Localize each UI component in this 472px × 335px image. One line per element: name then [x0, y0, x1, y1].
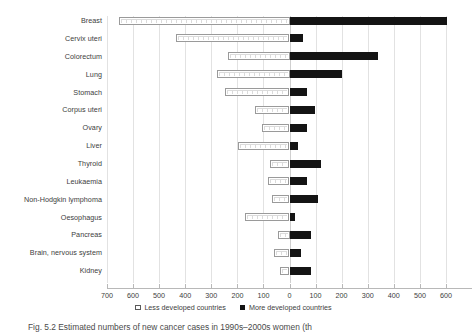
x-axis-line — [107, 288, 472, 289]
category-label-oesophagus: Oesophagus — [2, 213, 102, 222]
open-square-swatch-icon — [135, 305, 141, 311]
bar-pattern — [178, 36, 287, 40]
bar-less-developed-oesophagus — [245, 213, 289, 221]
category-label-kidney: Kidney — [2, 266, 102, 275]
gridline — [446, 16, 447, 283]
bar-more-developed-oesophagus — [290, 213, 296, 221]
tick-mark — [394, 284, 395, 288]
chart-plot-area: BreastCervix uteriColorectumLungStomachC… — [0, 0, 467, 300]
tick-mark — [107, 284, 108, 288]
bar-pattern — [282, 269, 287, 273]
bar-pattern — [280, 233, 288, 237]
bar-more-developed-kidney — [290, 267, 311, 275]
filled-square-swatch-icon — [240, 305, 246, 311]
tick-mark — [446, 284, 447, 288]
category-label-non-hodgkin-lymphoma: Non-Hodgkin lymphoma — [2, 195, 102, 204]
bar-pattern — [274, 197, 287, 201]
bar-less-developed-kidney — [280, 267, 289, 275]
bar-more-developed-leukaemia — [290, 177, 308, 185]
bar-more-developed-ovary — [290, 124, 308, 132]
tick-mark — [133, 284, 134, 288]
bar-less-developed-non-hodgkin-lymphoma — [272, 195, 289, 203]
bar-more-developed-liver — [290, 142, 298, 150]
bar-less-developed-ovary — [262, 124, 290, 132]
legend-label-less-developed: Less developed countries — [144, 303, 226, 312]
bar-more-developed-lung — [290, 70, 343, 78]
x-tick-label: 600 — [431, 291, 461, 300]
gridline — [420, 16, 421, 283]
bar-more-developed-colorectum — [290, 52, 378, 60]
bar-less-developed-liver — [238, 142, 290, 150]
bar-more-developed-non-hodgkin-lymphoma — [290, 195, 319, 203]
category-label-ovary: Ovary — [2, 123, 102, 132]
bar-more-developed-thyroid — [290, 160, 322, 168]
bar-pattern — [247, 215, 287, 219]
category-label-thyroid: Thyroid — [2, 159, 102, 168]
bar-more-developed-corpus-uteri — [290, 106, 316, 114]
bar-pattern — [219, 72, 288, 76]
figure-caption: Fig. 5.2 Estimated numbers of new cancer… — [28, 322, 458, 334]
bar-more-developed-breast — [290, 17, 448, 25]
tick-mark — [420, 284, 421, 288]
category-label-corpus-uteri: Corpus uteri — [2, 105, 102, 114]
bar-less-developed-stomach — [225, 88, 289, 96]
gridline — [211, 16, 212, 283]
tick-mark — [237, 284, 238, 288]
gridline — [107, 16, 108, 283]
category-label-leukaemia: Leukaemia — [2, 177, 102, 186]
gridline — [185, 16, 186, 283]
tick-mark — [368, 284, 369, 288]
bar-less-developed-cervix-uteri — [176, 34, 289, 42]
bar-pattern — [230, 54, 288, 58]
bar-pattern — [264, 126, 288, 130]
bar-less-developed-thyroid — [270, 160, 290, 168]
category-label-cervix-uteri: Cervix uteri — [2, 34, 102, 43]
bar-pattern — [276, 251, 287, 255]
gridline — [394, 16, 395, 283]
category-label-liver: Liver — [2, 141, 102, 150]
category-label-colorectum: Colorectum — [2, 52, 102, 61]
legend-item-less-developed: Less developed countries — [135, 303, 226, 312]
bar-less-developed-leukaemia — [268, 177, 290, 185]
bar-less-developed-brain-nervous-system — [274, 249, 289, 257]
bar-more-developed-stomach — [290, 88, 308, 96]
tick-mark — [290, 284, 291, 288]
bar-pattern — [240, 144, 288, 148]
bar-pattern — [270, 179, 288, 183]
tick-mark — [159, 284, 160, 288]
tick-mark — [185, 284, 186, 288]
bar-pattern — [272, 162, 288, 166]
category-label-stomach: Stomach — [2, 88, 102, 97]
bar-more-developed-pancreas — [290, 231, 312, 239]
bar-less-developed-colorectum — [228, 52, 290, 60]
bar-pattern — [257, 108, 287, 112]
gridline — [133, 16, 134, 283]
category-label-lung: Lung — [2, 70, 102, 79]
tick-mark — [316, 284, 317, 288]
category-label-brain-nervous-system: Brain, nervous system — [2, 248, 102, 257]
tick-mark — [211, 284, 212, 288]
bar-less-developed-corpus-uteri — [255, 106, 289, 114]
tick-mark — [263, 284, 264, 288]
bar-more-developed-cervix-uteri — [290, 34, 304, 42]
category-label-pancreas: Pancreas — [2, 230, 102, 239]
bar-more-developed-brain-nervous-system — [290, 249, 302, 257]
category-label-breast: Breast — [2, 16, 102, 25]
gridline — [159, 16, 160, 283]
bar-less-developed-pancreas — [278, 231, 290, 239]
chart-legend: Less developed countries More developed … — [0, 303, 467, 312]
legend-item-more-developed: More developed countries — [240, 303, 332, 312]
bar-pattern — [227, 90, 287, 94]
bar-less-developed-lung — [217, 70, 290, 78]
tick-mark — [342, 284, 343, 288]
bar-less-developed-breast — [119, 17, 290, 25]
bar-pattern — [121, 19, 288, 23]
legend-label-more-developed: More developed countries — [249, 303, 332, 312]
